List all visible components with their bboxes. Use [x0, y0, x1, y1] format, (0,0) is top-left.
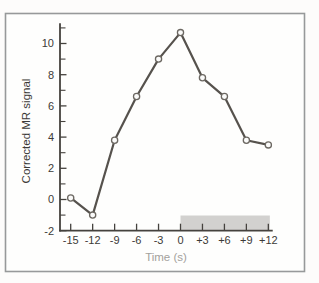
y-axis-title: Corrected MR signal: [20, 79, 32, 184]
y-tick-label: 4: [48, 131, 54, 143]
x-tick-label: -15: [63, 234, 79, 246]
x-axis-title: Time (s): [145, 251, 187, 263]
y-tick-label: 0: [48, 193, 54, 205]
data-point-marker: [90, 212, 96, 218]
data-point-marker: [221, 93, 227, 99]
stimulus-shaded-region: [181, 216, 270, 230]
x-tick-label: +6: [218, 234, 231, 246]
data-point-marker: [265, 142, 271, 148]
data-point-marker: [68, 195, 74, 201]
x-tick-label: -6: [132, 234, 142, 246]
y-tick-label: 2: [48, 162, 54, 174]
data-point-marker: [199, 75, 205, 81]
x-tick-label: +12: [259, 234, 278, 246]
data-point-marker: [155, 56, 161, 62]
data-point-marker: [243, 137, 249, 143]
x-tick-label: +3: [196, 234, 209, 246]
figure: -15-12-9-6-30+3+6+9+12-20246810 Correcte…: [0, 0, 319, 283]
data-point-marker: [112, 137, 118, 143]
x-tick-label: 0: [177, 234, 183, 246]
data-point-marker: [177, 29, 183, 35]
mr-signal-chart: -15-12-9-6-30+3+6+9+12-20246810 Correcte…: [0, 0, 319, 283]
x-tick-label: -9: [110, 234, 120, 246]
y-tick-label: -2: [44, 225, 54, 237]
y-tick-label: 10: [42, 37, 54, 49]
y-tick-label: 6: [48, 100, 54, 112]
x-tick-label: -3: [154, 234, 164, 246]
x-tick-label: +9: [240, 234, 253, 246]
x-tick-label: -12: [85, 234, 101, 246]
y-tick-label: 8: [48, 69, 54, 81]
data-point-marker: [133, 93, 139, 99]
